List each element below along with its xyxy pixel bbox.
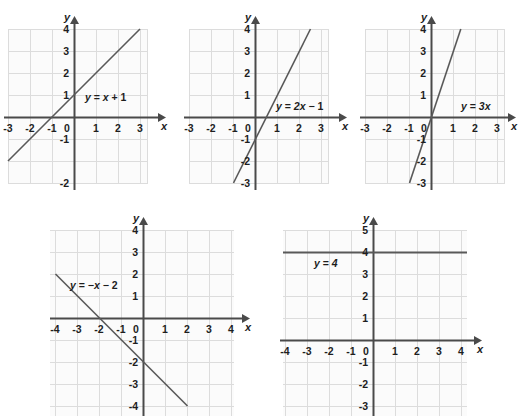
equation-label-3-rel: =: [467, 100, 479, 112]
plot-background-1: [8, 29, 148, 183]
graph-panel-2: -3 -2 -1 0 1 2 3 4 3 2 1 -1 -2 -3 x y y …: [180, 8, 355, 196]
y-tick-4-0: 4: [132, 224, 138, 236]
x-tick-2-5: 2: [296, 122, 302, 134]
y-tick-3-3: 1: [420, 89, 426, 101]
x-tick-5-2: -2: [324, 345, 333, 357]
y-tick-3-0: 4: [420, 23, 426, 35]
x-tick-1-6: 3: [137, 122, 143, 134]
y-tick-3-2: 2: [420, 67, 426, 79]
y-axis-label-1: y: [63, 11, 71, 23]
x-tick-2-6: 3: [318, 122, 324, 134]
x-tick-2-4: 1: [274, 122, 280, 134]
y-tick-1-0: 4: [63, 23, 69, 35]
x-tick-2-1: -2: [206, 122, 215, 134]
equation-label-3-var: 3x: [479, 100, 492, 112]
y-tick-2-4: -1: [241, 133, 250, 145]
x-tick-2-0: -3: [184, 122, 193, 134]
y-tick-2-2: 2: [244, 67, 250, 79]
y-tick-3-5: -2: [417, 155, 426, 167]
x-tick-2-2: -1: [228, 122, 237, 134]
y-axis-arrow-1: [70, 16, 79, 24]
y-tick-2-3: 1: [244, 89, 250, 101]
x-tick-4-7: 3: [206, 323, 212, 335]
equation-label-5-var: 4: [331, 257, 338, 269]
x-tick-5-1: -3: [302, 345, 311, 357]
y-tick-4-7: -4: [129, 400, 138, 412]
graph-3-svg: -3 -2 -1 0 1 2 3 4 3 2 1 -1 -2 -3 x y y …: [355, 8, 521, 196]
y-axis-arrow-2: [251, 16, 260, 24]
y-tick-5-4: 1: [362, 312, 368, 324]
y-tick-5-0: 5: [362, 224, 368, 236]
equation-label-1-rest: + 1: [109, 91, 127, 103]
y-tick-5-1: 4: [362, 246, 368, 258]
worksheet-page: -3 -2 -1 0 1 2 3 4 3 2 1 -1 -2 x y y = x…: [0, 0, 521, 416]
x-axis-label-2: x: [341, 120, 349, 132]
x-tick-5-8: 4: [458, 345, 464, 357]
graph-5-svg: -4 -3 -2 -1 0 1 2 3 4 5 4 3 2 1 -1 -2 -3…: [258, 215, 493, 416]
y-tick-4-3: 1: [132, 290, 138, 302]
y-tick-5-5: -1: [359, 356, 368, 368]
x-tick-1-4: 1: [93, 122, 99, 134]
x-tick-4-6: 2: [184, 323, 190, 335]
equation-label-4-rel: =: [76, 279, 88, 291]
equation-label-4: y = −x − 2: [69, 279, 118, 291]
y-tick-5-3: 2: [362, 290, 368, 302]
graph-2-svg: -3 -2 -1 0 1 2 3 4 3 2 1 -1 -2 -3 x y y …: [180, 8, 355, 196]
y-axis-label-3: y: [420, 11, 428, 23]
y-tick-3-4: -1: [417, 133, 426, 145]
y-tick-2-0: 4: [244, 23, 250, 35]
y-tick-4-4: -1: [129, 334, 138, 346]
y-axis-arrow-3: [427, 16, 436, 24]
x-axis-label-4: x: [244, 321, 252, 333]
y-axis-label-5: y: [362, 215, 370, 224]
x-tick-5-5: 1: [392, 345, 398, 357]
y-tick-4-1: 3: [132, 246, 138, 258]
x-tick-5-6: 2: [414, 345, 420, 357]
y-tick-3-1: 3: [420, 45, 426, 57]
y-tick-3-6: -3: [417, 177, 426, 189]
graph-panel-1: -3 -2 -1 0 1 2 3 4 3 2 1 -1 -2 x y y = x…: [0, 8, 175, 193]
x-axis-label-5: x: [476, 343, 484, 355]
graph-panel-5: -4 -3 -2 -1 0 1 2 3 4 5 4 3 2 1 -1 -2 -3…: [258, 215, 493, 416]
equation-label-5-rel: =: [320, 257, 332, 269]
x-tick-5-7: 3: [436, 345, 442, 357]
equation-label-2-rel: =: [282, 100, 294, 112]
x-tick-3-2: -1: [404, 122, 413, 134]
y-tick-1-3: 1: [63, 89, 69, 101]
x-tick-3-5: 2: [472, 122, 478, 134]
x-tick-5-3: -1: [346, 345, 355, 357]
x-tick-3-0: -3: [360, 122, 369, 134]
equation-label-1-rel: =: [91, 91, 103, 103]
y-tick-5-7: -3: [359, 400, 368, 412]
x-tick-3-1: -2: [382, 122, 391, 134]
equation-label-3: y = 3x: [460, 100, 492, 112]
graph-4-svg: -4 -3 -2 -1 0 1 2 3 4 4 3 2 1 -1 -2 -3 -…: [50, 215, 275, 416]
y-tick-1-2: 2: [63, 67, 69, 79]
x-tick-3-6: 3: [494, 122, 500, 134]
x-tick-4-5: 1: [162, 323, 168, 335]
y-axis-label-2: y: [244, 11, 252, 23]
clipped-header-text: [0, 0, 521, 7]
equation-label-4-rest: − 2: [100, 279, 118, 291]
graph-1-svg: -3 -2 -1 0 1 2 3 4 3 2 1 -1 -2 x y y = x…: [0, 8, 175, 193]
y-axis-label-4: y: [132, 215, 140, 224]
y-tick-2-5: -2: [241, 155, 250, 167]
y-tick-2-6: -3: [241, 177, 250, 189]
equation-label-5: y = 4: [313, 257, 338, 269]
x-tick-4-2: -2: [94, 323, 103, 335]
x-tick-1-1: -2: [25, 122, 34, 134]
x-tick-1-2: -1: [47, 122, 56, 134]
x-tick-4-3: -1: [116, 323, 125, 335]
x-tick-3-4: 1: [450, 122, 456, 134]
y-tick-2-1: 3: [244, 45, 250, 57]
y-tick-1-5: -2: [60, 177, 69, 189]
y-tick-4-5: -2: [129, 356, 138, 368]
equation-label-2-rest: − 1: [306, 100, 324, 112]
y-axis-arrow-5: [369, 217, 378, 225]
y-tick-1-1: 3: [63, 45, 69, 57]
y-tick-1-4: -1: [60, 133, 69, 145]
x-tick-4-8: 4: [228, 323, 234, 335]
x-tick-4-0: -4: [50, 323, 59, 335]
y-tick-4-6: -3: [129, 378, 138, 390]
graph-panel-3: -3 -2 -1 0 1 2 3 4 3 2 1 -1 -2 -3 x y y …: [355, 8, 521, 196]
